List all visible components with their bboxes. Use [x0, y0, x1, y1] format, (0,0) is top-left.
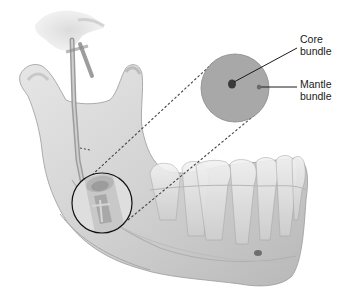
- core-bundle-dot: [228, 80, 236, 89]
- core-label-line2: bundle: [300, 45, 332, 57]
- mantle-bundle-label: Mantle bundle: [300, 78, 332, 102]
- core-bundle-label: Core bundle: [300, 33, 332, 57]
- mandible-diagram: Core bundle Mantle bundle: [0, 0, 350, 301]
- mantle-bundle-dot: [257, 84, 261, 89]
- hand-illustration: [35, 11, 104, 51]
- foramen-icon: [254, 250, 262, 256]
- cross-section-inset: [201, 54, 269, 122]
- mantle-label-line1: Mantle: [300, 78, 332, 90]
- diagram-svg: [0, 0, 350, 301]
- mantle-label-line2: bundle: [300, 90, 332, 102]
- core-label-line1: Core: [300, 33, 332, 45]
